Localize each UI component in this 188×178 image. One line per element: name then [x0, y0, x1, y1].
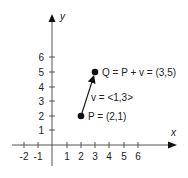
y-tick-label: 5 [38, 67, 44, 78]
x-tick-labels: -2 -1 1 2 3 4 5 6 [20, 151, 142, 162]
y-tick-label: 4 [38, 82, 44, 93]
x-tick-label: 4 [106, 151, 112, 162]
x-axis-label: x [170, 127, 177, 138]
y-tick-label: 2 [38, 111, 44, 122]
vector-v-label: v = <1,3> [91, 92, 133, 103]
x-tick-label: 1 [64, 151, 70, 162]
x-axis-arrow-icon [168, 142, 177, 149]
x-tick-label: 3 [92, 151, 98, 162]
y-tick-label: 6 [38, 52, 44, 63]
x-tick-label: 6 [135, 151, 141, 162]
y-axis-label: y [59, 11, 66, 22]
y-axis: y [49, 11, 67, 166]
point-q-label: Q = P + v = (3,5) [102, 67, 176, 78]
x-tick-label: -2 [20, 151, 29, 162]
x-tick-label: 5 [121, 151, 127, 162]
y-tick-label: 3 [38, 96, 44, 107]
point-q [92, 69, 99, 76]
vector-addition-diagram: y x -2 -1 1 2 3 4 5 6 1 2 3 [0, 0, 188, 178]
y-tick-label: 1 [38, 125, 44, 136]
x-tick-label: -1 [34, 151, 43, 162]
point-p [78, 113, 85, 120]
point-p-label: P = (2,1) [88, 111, 126, 122]
x-tick-label: 2 [78, 151, 84, 162]
y-axis-arrow-icon [49, 14, 56, 22]
y-tick-labels: 1 2 3 4 5 6 [38, 52, 44, 136]
